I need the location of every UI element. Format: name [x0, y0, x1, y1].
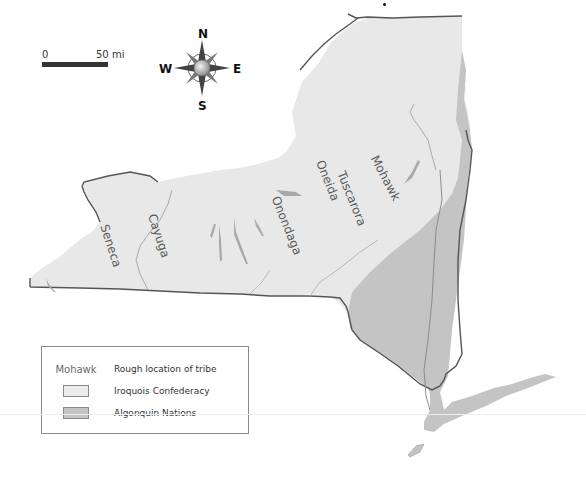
scale-bar: 0 50 mi — [42, 49, 124, 67]
compass-rose: N S W E — [159, 27, 241, 113]
scale-end-label: 50 mi — [96, 49, 124, 60]
legend-label-tribe: Rough location of tribe — [114, 364, 216, 374]
compass-west: W — [159, 62, 172, 76]
compass-south: S — [198, 99, 207, 113]
map-legend: Mohawk Rough location of tribe Iroquois … — [41, 346, 249, 434]
legend-item-algonquin: Algonquin Nations — [42, 405, 248, 421]
compass-east: E — [233, 62, 241, 76]
legend-item-iroquois: Iroquois Confederacy — [42, 383, 248, 399]
legend-label-iroquois: Iroquois Confederacy — [114, 386, 210, 396]
legend-item-tribe: Mohawk Rough location of tribe — [42, 361, 248, 377]
staten-island — [408, 444, 424, 457]
scale-start-label: 0 — [42, 49, 48, 60]
faint-divider-line — [0, 414, 586, 415]
compass-north: N — [198, 27, 208, 41]
legend-tribe-sample: Mohawk — [55, 364, 96, 375]
algonquin-swatch — [63, 407, 89, 419]
iroquois-swatch — [63, 385, 89, 397]
stray-dot — [383, 3, 386, 6]
legend-label-algonquin: Algonquin Nations — [114, 408, 196, 418]
